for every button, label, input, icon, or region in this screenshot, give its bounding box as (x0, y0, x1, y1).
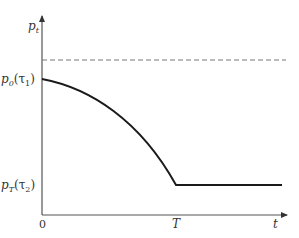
origin-label: 0 (39, 218, 46, 231)
terminal-price-label: pT(τ2) (1, 178, 35, 194)
price-path-diagram: pt p0(τ1) pT(τ2) 0 T t (0, 0, 299, 238)
x-axis-label: t (273, 217, 278, 231)
initial-price-label: p0(τ1) (1, 72, 35, 88)
x-tick-label-T: T (172, 217, 181, 231)
price-curve (42, 79, 282, 185)
y-axis-label: pt (28, 19, 40, 35)
